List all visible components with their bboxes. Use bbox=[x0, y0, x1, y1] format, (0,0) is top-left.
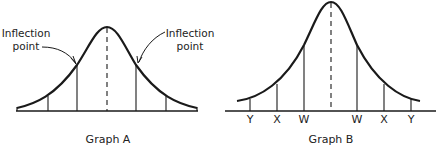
graph-a-caption: Graph A bbox=[86, 133, 131, 146]
inflection-left-line1: Inflection bbox=[2, 27, 51, 40]
graph-b bbox=[225, 2, 436, 111]
tick-label-y-right: Y bbox=[408, 113, 415, 126]
normal-curves-diagram bbox=[0, 0, 438, 164]
arrow-right bbox=[139, 32, 165, 62]
tick-label-y-left: Y bbox=[247, 113, 254, 126]
inflection-label-right: Inflection point bbox=[166, 27, 215, 53]
tick-label-w-right: W bbox=[352, 113, 363, 126]
tick-label-w-left: W bbox=[299, 113, 310, 126]
graph-b-curve bbox=[237, 2, 420, 101]
tick-label-x-right: X bbox=[380, 113, 388, 126]
inflection-right-line1: Inflection bbox=[166, 27, 215, 40]
inflection-left-line2: point bbox=[2, 40, 51, 53]
inflection-label-left: Inflection point bbox=[2, 27, 51, 53]
inflection-right-line2: point bbox=[166, 40, 215, 53]
tick-label-x-left: X bbox=[273, 113, 281, 126]
graph-b-caption: Graph B bbox=[309, 133, 354, 146]
